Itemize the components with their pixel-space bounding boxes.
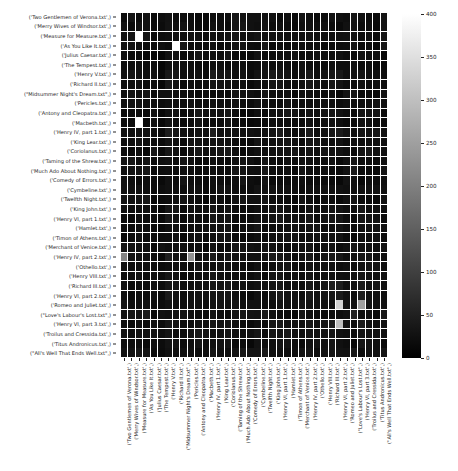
- heatmap-cell: [210, 51, 217, 60]
- heatmap-cell: [203, 300, 210, 309]
- x-tick-label: ('Comedy of Errors.txt',): [252, 363, 259, 424]
- heatmap-cell: [128, 157, 135, 166]
- heatmap-cell: [203, 348, 210, 357]
- x-tick-mark: [362, 358, 363, 361]
- heatmap-cell: [321, 90, 328, 99]
- heatmap-cell: [180, 272, 187, 281]
- heatmap-cell: [158, 233, 165, 242]
- heatmap-cell: [203, 205, 210, 214]
- heatmap-cell: [306, 214, 313, 223]
- heatmap-cell: [306, 147, 313, 156]
- heatmap-cell: [232, 329, 239, 338]
- heatmap-cell: [225, 253, 232, 262]
- heatmap-cell: [225, 233, 232, 242]
- heatmap-cell: [188, 233, 195, 242]
- heatmap-cell: [269, 70, 276, 79]
- y-tick-mark: [113, 218, 116, 219]
- heatmap-cell: [343, 253, 350, 262]
- heatmap-cell: [254, 118, 261, 127]
- heatmap-cell: [143, 118, 150, 127]
- y-tick-label: ('Henry IV, part 2.txt',): [54, 253, 111, 262]
- heatmap-cell: [381, 310, 388, 319]
- heatmap-cell: [151, 32, 158, 41]
- heatmap-cell: [195, 281, 202, 290]
- heatmap-cell: [329, 291, 336, 300]
- heatmap-cell: [203, 320, 210, 329]
- heatmap-cell: [232, 348, 239, 357]
- heatmap-cell: [121, 13, 128, 22]
- heatmap-cell: [269, 128, 276, 137]
- heatmap-cell: [254, 61, 261, 70]
- heatmap-cell: [232, 291, 239, 300]
- heatmap-cell: [329, 32, 336, 41]
- heatmap-cell: [240, 22, 247, 31]
- heatmap-cell: [343, 118, 350, 127]
- heatmap-cell: [180, 185, 187, 194]
- heatmap-cell: [343, 233, 350, 242]
- heatmap-cell: [306, 348, 313, 357]
- x-tick-mark: [139, 358, 140, 361]
- y-tick-label: ('Richard II.txt',): [70, 80, 111, 89]
- heatmap-cell: [329, 90, 336, 99]
- x-tick-label: ('Much Ado About Nothing.txt',): [245, 363, 252, 443]
- heatmap-cell: [262, 329, 269, 338]
- heatmap-cell: [277, 262, 284, 271]
- heatmap-cell: [254, 281, 261, 290]
- heatmap-cell: [269, 61, 276, 70]
- heatmap-cell: [336, 253, 343, 262]
- heatmap-cell: [299, 166, 306, 175]
- heatmap-cell: [277, 128, 284, 137]
- heatmap-cell: [277, 253, 284, 262]
- heatmap-cell: [158, 147, 165, 156]
- heatmap-cell: [143, 233, 150, 242]
- heatmap-cell: [321, 51, 328, 60]
- heatmap-cell: [358, 185, 365, 194]
- heatmap-cell: [158, 329, 165, 338]
- heatmap-cell: [366, 205, 373, 214]
- heatmap-cell: [151, 147, 158, 156]
- heatmap-cell: [262, 262, 269, 271]
- heatmap-cell: [121, 80, 128, 89]
- x-tick-label: ('Merchant of Venice.txt',): [304, 363, 311, 429]
- heatmap-cell: [254, 32, 261, 41]
- heatmap-cell: [240, 291, 247, 300]
- heatmap-cell: [269, 272, 276, 281]
- heatmap-cell: [336, 348, 343, 357]
- heatmap-cell: [136, 147, 143, 156]
- heatmap-cell: [299, 348, 306, 357]
- heatmap-cell: [358, 233, 365, 242]
- heatmap-cell: [158, 128, 165, 137]
- heatmap-cell: [254, 99, 261, 108]
- heatmap-cell: [262, 80, 269, 89]
- heatmap-cell: [158, 61, 165, 70]
- heatmap-cell: [143, 13, 150, 22]
- heatmap-cell: [240, 70, 247, 79]
- heatmap-cell: [136, 281, 143, 290]
- heatmap-cell: [180, 166, 187, 175]
- heatmap-cell: [314, 233, 321, 242]
- heatmap-cell: [158, 138, 165, 147]
- x-tick-label: ('Hamlet.txt',): [290, 363, 297, 398]
- heatmap-cell: [247, 176, 254, 185]
- heatmap-cell: [299, 291, 306, 300]
- heatmap-cell: [217, 166, 224, 175]
- heatmap-cell: [217, 348, 224, 357]
- heatmap-cell: [314, 70, 321, 79]
- heatmap-cell: [143, 195, 150, 204]
- heatmap-cell: [254, 185, 261, 194]
- heatmap-cell: [269, 185, 276, 194]
- x-tick-mark: [250, 358, 251, 361]
- heatmap-cell: [277, 281, 284, 290]
- heatmap-cell: [269, 166, 276, 175]
- colorbar-tick-labels: 050100150200250300350400: [421, 14, 458, 358]
- heatmap-cell: [232, 61, 239, 70]
- heatmap-cell: [343, 348, 350, 357]
- heatmap-cell: [180, 138, 187, 147]
- colorbar-tick: 150: [421, 225, 437, 233]
- heatmap-cell: [343, 157, 350, 166]
- heatmap-cell: [254, 291, 261, 300]
- heatmap-cell: [151, 262, 158, 271]
- heatmap-cell: [299, 61, 306, 70]
- heatmap-cell: [269, 205, 276, 214]
- heatmap-cell: [128, 262, 135, 271]
